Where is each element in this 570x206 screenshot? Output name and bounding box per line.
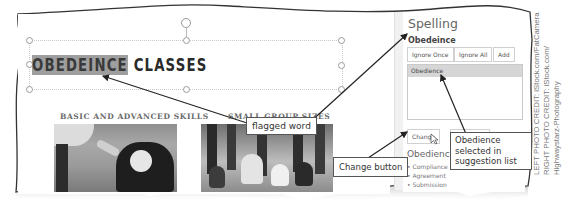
flagged-word[interactable]: OBEDEINCE — [32, 55, 128, 75]
callout-suggestion: Obedience selected in suggestion list — [450, 132, 532, 170]
person-arm — [54, 124, 94, 146]
add-button[interactable]: Add — [493, 47, 515, 62]
resize-handle[interactable] — [26, 86, 33, 93]
ignore-all-button[interactable]: Ignore All — [454, 47, 492, 62]
resize-handle[interactable] — [338, 37, 345, 44]
credit-line: RIGHT PHOTO CREDIT: iStock.com/ — [542, 12, 552, 175]
synonym-item: • Agreement — [407, 172, 446, 179]
suggestion-item[interactable]: Obedience — [408, 65, 522, 77]
resize-handle[interactable] — [183, 86, 190, 93]
photo-credits: LEFT PHOTO CREDIT: iStock.com/FatCamera … — [532, 12, 562, 175]
callout-flagged-word: flagged word — [246, 117, 317, 135]
dog — [271, 164, 289, 186]
synonym-item: • Submission — [407, 181, 447, 188]
title-rest: CLASSES — [128, 55, 208, 75]
person-leg — [56, 144, 68, 192]
callout-change-button: Change button — [333, 157, 408, 177]
flagged-word-label: Obedeince — [408, 36, 456, 45]
credit-line: Highwaystarz-Photography — [552, 12, 562, 175]
resize-handle[interactable] — [338, 86, 345, 93]
resize-handle[interactable] — [183, 37, 190, 44]
dog — [209, 166, 225, 188]
dog — [241, 154, 263, 184]
suggestion-list[interactable]: Obedience — [407, 64, 523, 120]
definition-word: Obedience — [407, 149, 455, 159]
ignore-once-button[interactable]: Ignore Once — [407, 47, 454, 62]
credit-line: LEFT PHOTO CREDIT: iStock.com/FatCamera — [532, 12, 542, 175]
synonym-item: • Compliance — [407, 163, 448, 170]
resize-handle[interactable] — [26, 37, 33, 44]
left-photo[interactable] — [54, 124, 177, 192]
rotate-handle-stem — [186, 27, 187, 37]
mouse-pointer-icon — [430, 133, 439, 145]
leg — [227, 124, 236, 170]
dog-paw — [96, 139, 121, 157]
spelling-pane-title: Spelling — [408, 16, 458, 31]
dog — [295, 162, 313, 186]
slide-title[interactable]: OBEDEINCE CLASSES — [32, 55, 207, 75]
left-heading: BASIC AND ADVANCED SKILLS — [60, 112, 209, 121]
resize-handle[interactable] — [338, 62, 345, 69]
dog-face — [130, 150, 152, 172]
